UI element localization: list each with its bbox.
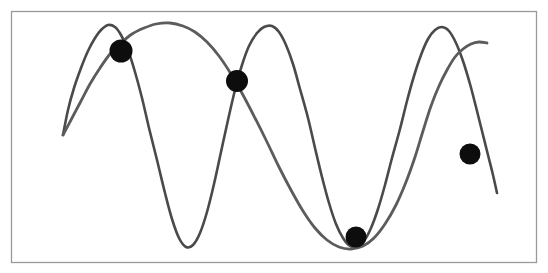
curve-plot bbox=[0, 0, 548, 273]
figure-container bbox=[0, 0, 548, 273]
intersection-point-3 bbox=[346, 227, 367, 248]
intersection-point-1 bbox=[110, 40, 133, 63]
intersection-point-4 bbox=[460, 144, 481, 165]
intersection-point-2 bbox=[226, 70, 248, 92]
